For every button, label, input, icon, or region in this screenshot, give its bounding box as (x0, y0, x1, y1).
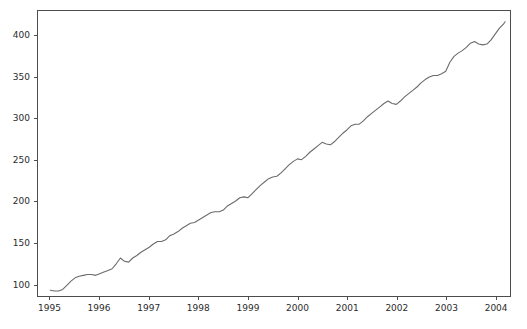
x-tick-label: 1996 (88, 303, 111, 313)
y-tick-label: 100 (0, 280, 30, 290)
x-tick-label: 2004 (485, 303, 508, 313)
x-tick-mark (198, 297, 199, 300)
x-tick-mark (149, 297, 150, 300)
x-tick-mark (397, 297, 398, 300)
x-tick-mark (248, 297, 249, 300)
x-tick-mark (298, 297, 299, 300)
x-tick-mark (446, 297, 447, 300)
y-tick-label: 150 (0, 238, 30, 248)
y-tick-mark (34, 285, 37, 286)
x-tick-label: 1998 (187, 303, 210, 313)
x-tick-mark (49, 297, 50, 300)
chart-figure: 100150200250300350400 199519961997199819… (0, 0, 527, 329)
y-tick-mark (34, 77, 37, 78)
x-tick-label: 2000 (286, 303, 309, 313)
y-tick-mark (34, 160, 37, 161)
y-tick-label: 250 (0, 155, 30, 165)
plot-area (37, 10, 511, 297)
y-tick-label: 300 (0, 113, 30, 123)
x-tick-label: 1995 (38, 303, 61, 313)
y-tick-mark (34, 201, 37, 202)
line-series-svg (38, 11, 510, 296)
x-tick-label: 1999 (236, 303, 259, 313)
x-tick-label: 2001 (336, 303, 359, 313)
y-tick-label: 200 (0, 196, 30, 206)
y-tick-label: 400 (0, 30, 30, 40)
x-tick-mark (347, 297, 348, 300)
y-tick-label: 350 (0, 72, 30, 82)
x-tick-mark (496, 297, 497, 300)
data-line-series-1 (50, 22, 505, 291)
x-tick-label: 1997 (137, 303, 160, 313)
y-tick-mark (34, 35, 37, 36)
x-tick-label: 2002 (385, 303, 408, 313)
x-tick-label: 2003 (435, 303, 458, 313)
x-tick-mark (99, 297, 100, 300)
y-tick-mark (34, 118, 37, 119)
y-tick-mark (34, 243, 37, 244)
